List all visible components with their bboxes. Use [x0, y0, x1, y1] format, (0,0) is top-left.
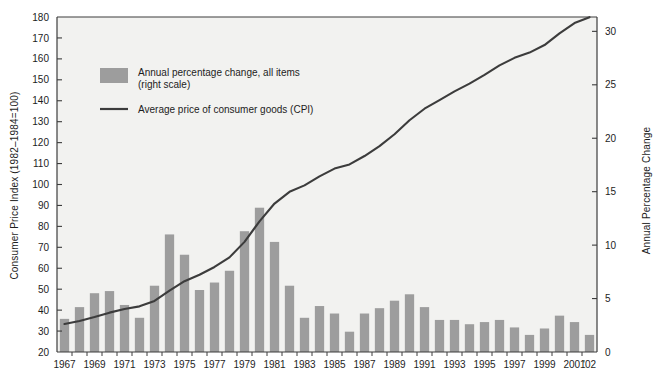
- bar-1987: [360, 314, 369, 352]
- bar-1983: [300, 318, 309, 352]
- bar-1985: [330, 314, 339, 352]
- y-tick-label-left-90: 90: [38, 200, 50, 211]
- bar-1993: [450, 320, 459, 352]
- bar-1977: [210, 283, 219, 352]
- y-tick-label-right-30: 30: [605, 26, 617, 37]
- y-tick-label-left-20: 20: [38, 347, 50, 358]
- y-tick-label-left-110: 110: [33, 158, 49, 169]
- bar-1972: [135, 318, 144, 352]
- bar-1990: [405, 294, 414, 352]
- bar-1970: [105, 291, 114, 352]
- y-tick-label-left-130: 130: [32, 116, 49, 127]
- bar-1996: [495, 320, 504, 352]
- y-tick-label-right-15: 15: [605, 186, 617, 197]
- chart-plot-area: 2030405060708090100110120130140150160170…: [0, 0, 665, 386]
- bar-1989: [390, 301, 399, 352]
- x-tick-label-1969: 1969: [83, 359, 106, 370]
- y-tick-label-left-60: 60: [38, 263, 50, 274]
- bar-2000: [555, 316, 564, 352]
- y-tick-label-left-100: 100: [32, 179, 49, 190]
- y-tick-label-left-120: 120: [32, 137, 49, 148]
- x-tick-label-1989: 1989: [383, 359, 406, 370]
- x-tick-label-1993: 1993: [443, 359, 466, 370]
- y-tick-label-left-160: 160: [32, 53, 49, 64]
- x-tick-label-1997: 1997: [503, 359, 526, 370]
- bar-1988: [375, 308, 384, 352]
- x-tick-label-1985: 1985: [323, 359, 346, 370]
- y-tick-label-left-180: 180: [32, 12, 49, 23]
- x-axis-ticks: 1967196919711973197519771979198119831985…: [53, 352, 596, 370]
- bar-1982: [285, 286, 294, 352]
- bar-1973: [150, 286, 159, 352]
- bar-1975: [180, 255, 189, 352]
- cpi-inflation-chart: Consumer Price Index (1982–1984=100) Ann…: [0, 0, 665, 386]
- bar-1976: [195, 290, 204, 352]
- y-tick-label-right-25: 25: [605, 79, 617, 90]
- x-tick-label-1967: 1967: [53, 359, 76, 370]
- x-tick-label-1975: 1975: [173, 359, 196, 370]
- bar-2002: [585, 335, 594, 352]
- y-tick-label-right-20: 20: [605, 133, 617, 144]
- bar-1994: [465, 324, 474, 352]
- y-tick-label-left-150: 150: [32, 74, 49, 85]
- x-tick-label-1977: 1977: [203, 359, 226, 370]
- bar-1968: [75, 307, 84, 352]
- x-tick-label-1971: 1971: [113, 359, 136, 370]
- y-tick-label-right-5: 5: [605, 293, 611, 304]
- x-tick-label-1991: 1991: [413, 359, 436, 370]
- bar-1971: [120, 305, 129, 352]
- x-tick-label-1983: 1983: [293, 359, 316, 370]
- y-tick-label-left-50: 50: [38, 284, 50, 295]
- bar-1978: [225, 271, 234, 352]
- bar-1999: [540, 328, 549, 352]
- bar-1997: [510, 327, 519, 352]
- x-tick-label-2002: '02: [583, 359, 596, 370]
- bar-1986: [345, 332, 354, 352]
- bar-1981: [270, 242, 279, 352]
- bar-1969: [90, 293, 99, 352]
- bar-1992: [435, 320, 444, 352]
- bar-1991: [420, 307, 429, 352]
- y-tick-label-left-70: 70: [38, 242, 50, 253]
- y-tick-label-left-140: 140: [32, 95, 49, 106]
- legend-label-bar-line1: Annual percentage change, all items: [138, 67, 300, 78]
- x-tick-label-1999: 1999: [533, 359, 556, 370]
- x-tick-label-1979: 1979: [233, 359, 256, 370]
- bar-1980: [255, 208, 264, 352]
- y-tick-label-left-30: 30: [38, 326, 50, 337]
- y-tick-label-right-10: 10: [605, 240, 617, 251]
- x-tick-label-1987: 1987: [353, 359, 376, 370]
- bar-1995: [480, 322, 489, 352]
- x-tick-label-1995: 1995: [473, 359, 496, 370]
- y-tick-label-right-0: 0: [605, 347, 611, 358]
- bar-2001: [570, 322, 579, 352]
- legend-label-bar-line2: (right scale): [138, 79, 190, 90]
- legend-label-line: Average price of consumer goods (CPI): [138, 104, 313, 115]
- bar-1979: [240, 231, 249, 352]
- legend-swatch-bar: [100, 68, 128, 83]
- bar-1998: [525, 335, 534, 352]
- bar-1984: [315, 306, 324, 352]
- x-tick-label-1973: 1973: [143, 359, 166, 370]
- x-tick-label-1981: 1981: [263, 359, 286, 370]
- y-tick-label-left-170: 170: [32, 33, 49, 44]
- y-tick-label-left-80: 80: [38, 221, 50, 232]
- y-tick-label-left-40: 40: [38, 305, 50, 316]
